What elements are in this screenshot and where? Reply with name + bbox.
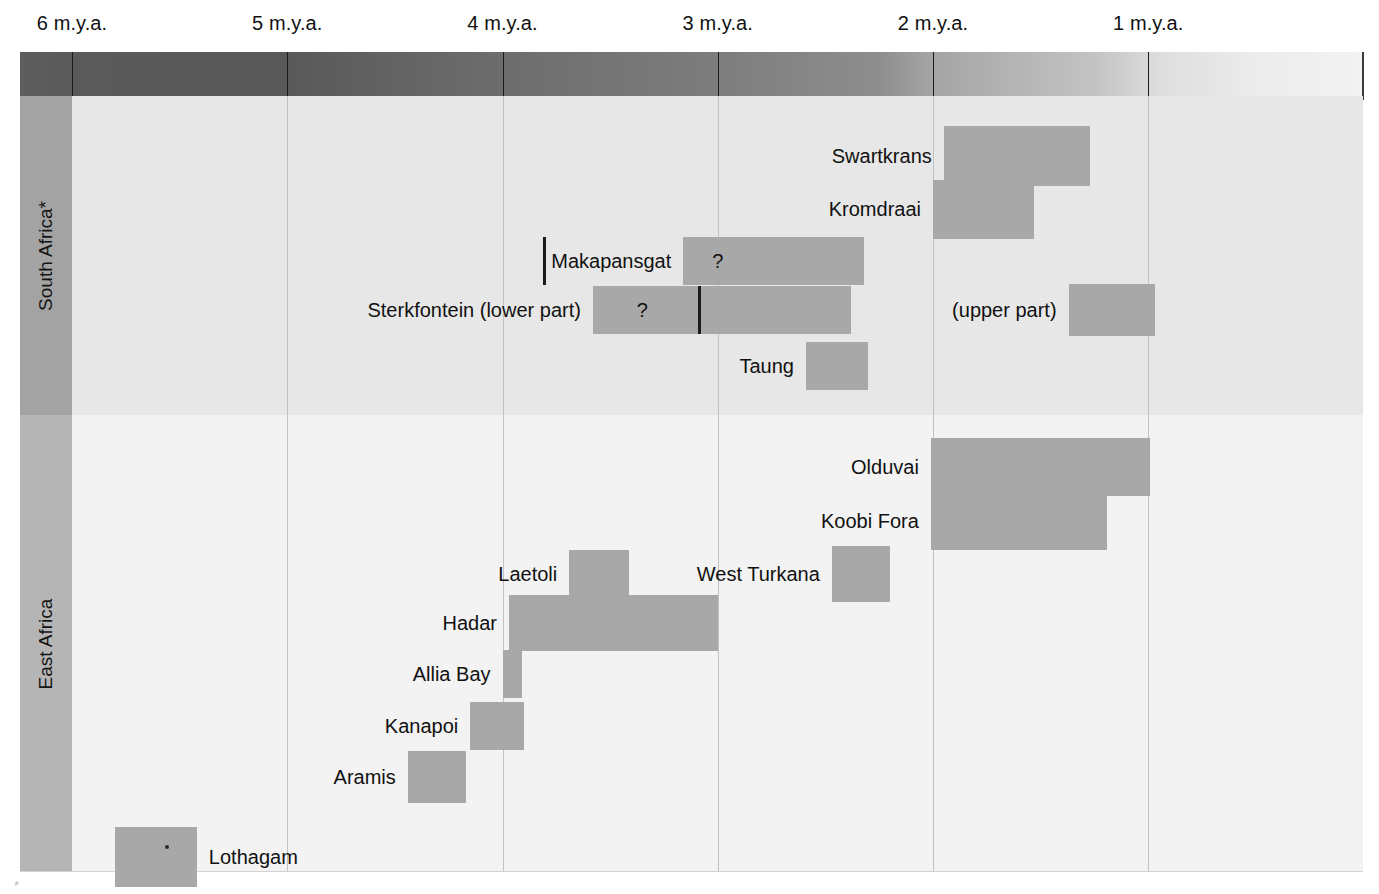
era-bar-tick-5mya [287, 52, 288, 96]
region-strip-east-africa: East Africa [20, 415, 72, 872]
site-label-taung: Taung [740, 356, 795, 376]
axis-tick-label-6mya: 6 m.y.a. [37, 12, 107, 35]
plot-area: South Africa* East Africa SwartkransKrom… [20, 96, 1363, 872]
axis-tick-label-5mya: 5 m.y.a. [252, 12, 322, 35]
site-bar-kromdraai[interactable] [933, 180, 1034, 239]
site-label-swartkrans: Swartkrans [832, 146, 932, 166]
axis-tick-label-1mya: 1 m.y.a. [1113, 12, 1183, 35]
gridline-5mya [287, 96, 288, 872]
era-bar-tick-4mya [503, 52, 504, 96]
site-bar-swartkrans[interactable] [944, 126, 1090, 186]
site-bar-aramis[interactable] [408, 751, 466, 803]
uncertainty-question-mark: ? [712, 250, 723, 273]
axis-tick-label-4mya: 4 m.y.a. [467, 12, 537, 35]
site-bar-laetoli[interactable] [569, 550, 629, 598]
gridline-3mya [718, 96, 719, 872]
era-bar-tick-3mya [718, 52, 719, 96]
site-label-hadar: Hadar [442, 613, 496, 633]
site-label-kanapoi: Kanapoi [385, 716, 458, 736]
site-bar-kanapoi[interactable] [470, 702, 524, 750]
site-label-allia-bay: Allia Bay [413, 664, 491, 684]
site-bar-koobi-fora[interactable] [931, 492, 1108, 550]
era-bar-tick-1mya [1148, 52, 1149, 96]
site-label-olduvai: Olduvai [851, 457, 919, 477]
axis-tick-label-2mya: 2 m.y.a. [898, 12, 968, 35]
region-strip-south-africa: South Africa* [20, 96, 72, 415]
era-bar-tick-6mya [72, 52, 73, 96]
era-bar-tick-2mya [933, 52, 934, 96]
region-label-east-africa: East Africa [35, 598, 57, 689]
axis-end-tick [1362, 52, 1364, 100]
site-label-aramis: Aramis [334, 767, 396, 787]
site-bar-west-turkana[interactable] [832, 546, 890, 602]
axis-tick-label-3mya: 3 m.y.a. [683, 12, 753, 35]
fossil-point-marker [165, 845, 169, 849]
site-bar-makapansgat[interactable] [683, 237, 864, 285]
region-label-south-africa: South Africa* [35, 201, 57, 311]
gridline-4mya [503, 96, 504, 872]
footnote-marker: * [14, 878, 19, 893]
site-bar-allia-bay[interactable] [503, 650, 522, 698]
uncertainty-question-mark: ? [637, 299, 648, 322]
site-label-west-turkana: West Turkana [697, 564, 820, 584]
site-label-laetoli: Laetoli [498, 564, 557, 584]
time-axis-labels: 6 m.y.a.5 m.y.a.4 m.y.a.3 m.y.a.2 m.y.a.… [0, 0, 1379, 48]
site-label-sterkfontein-upper-part: (upper part) [952, 300, 1057, 320]
site-label-sterkfontein-lower-part: Sterkfontein (lower part) [367, 300, 580, 320]
site-label-lothagam: Lothagam [209, 847, 298, 867]
site-label-koobi-fora: Koobi Fora [821, 511, 919, 531]
site-bar-hadar[interactable] [509, 595, 718, 651]
site-bar-sterkfontein-lower-part[interactable] [593, 286, 851, 334]
site-bar-olduvai[interactable] [931, 438, 1151, 496]
site-bar-divider-0 [698, 286, 701, 334]
site-bar-sterkfontein-upper-part[interactable] [1069, 284, 1155, 336]
plot-bottom-rule [20, 871, 1363, 872]
site-label-makapansgat: Makapansgat [551, 251, 671, 271]
site-bar-taung[interactable] [806, 342, 868, 390]
time-gradient-bar [20, 52, 1363, 96]
site-bar-lothagam[interactable] [115, 827, 197, 887]
site-bar-divider-0 [543, 237, 546, 285]
hominid-sites-timeline-chart: 6 m.y.a.5 m.y.a.4 m.y.a.3 m.y.a.2 m.y.a.… [0, 0, 1379, 894]
site-label-kromdraai: Kromdraai [829, 199, 921, 219]
